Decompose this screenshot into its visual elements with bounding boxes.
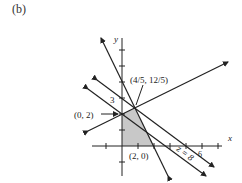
pointer-4-5-12-5 xyxy=(136,85,143,105)
point-label-4-5-12-5: (4/5, 12/5) xyxy=(130,75,168,85)
x-axis-label: x xyxy=(227,133,232,143)
point-label-0-2: (0, 2) xyxy=(74,110,94,120)
y-tick-label-3: 3 xyxy=(110,95,115,105)
y-axis-label: y xyxy=(113,34,118,44)
constraint-line-rising xyxy=(88,62,228,131)
feasible-region-diagram: y x 3 6 (0, 2) (4/5, 12/5) (2, 0) z = 8 xyxy=(0,0,242,183)
x-tick-label-6: 6 xyxy=(198,150,202,159)
constraint-line-falling xyxy=(97,80,214,167)
point-label-2-0: (2, 0) xyxy=(129,151,149,161)
